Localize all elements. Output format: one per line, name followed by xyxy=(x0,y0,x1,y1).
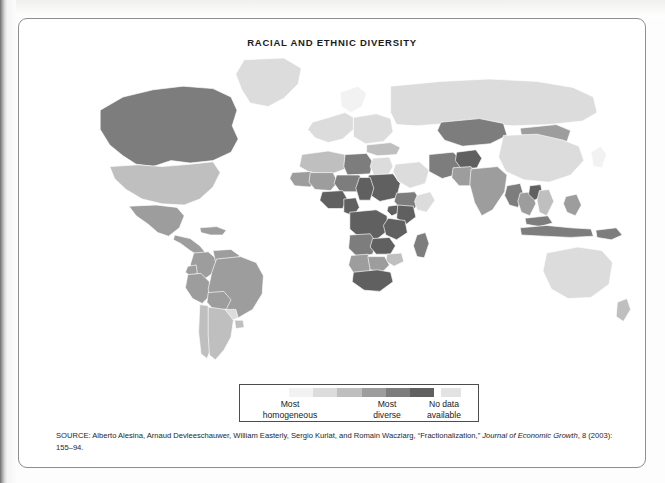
legend-nodata-line2: available xyxy=(411,410,477,421)
map-region-madagascar xyxy=(413,233,429,258)
map-region-western-europe xyxy=(308,113,354,143)
map-region-libya xyxy=(344,153,373,175)
map-region-caribbean xyxy=(200,227,226,235)
legend-ramp-step-6 xyxy=(410,388,434,397)
page-gutter-shadow xyxy=(0,0,7,483)
legend-homogeneous-line1: Most xyxy=(242,399,338,410)
legend-homogeneous-line2: homogeneous xyxy=(242,410,338,421)
world-map-svg xyxy=(33,55,633,385)
map-region-uruguay xyxy=(235,320,245,328)
map-region-canada xyxy=(100,86,238,166)
map-region-eastern-europe xyxy=(353,114,393,144)
legend-label-no-data: No data available xyxy=(411,399,477,420)
map-region-papua-new-guinea xyxy=(596,228,622,240)
page-gutter-inner xyxy=(7,0,16,483)
legend-ramp-step-2 xyxy=(313,388,337,397)
map-legend: Most homogeneous Most diverse No data av… xyxy=(239,384,479,422)
page-title: RACIAL AND ETHNIC DIVERSITY xyxy=(19,37,645,48)
legend-diverse-line1: Most xyxy=(358,399,416,410)
map-region-tanzania xyxy=(383,218,407,240)
map-region-somalia xyxy=(415,192,435,212)
map-region-chad xyxy=(356,177,374,200)
map-region-mali xyxy=(309,173,338,191)
legend-diverse-line2: diverse xyxy=(358,410,416,421)
map-region-kazakhstan xyxy=(437,119,507,147)
map-region-malaysia xyxy=(525,216,553,227)
map-region-indonesia xyxy=(520,225,593,237)
legend-color-ramp xyxy=(289,388,434,397)
map-region-mexico xyxy=(129,205,184,236)
map-region-nigeria xyxy=(320,191,348,209)
legend-ramp-step-3 xyxy=(337,388,361,397)
map-region-north-africa xyxy=(299,151,345,174)
map-region-south-africa xyxy=(352,270,393,292)
map-region-china xyxy=(499,134,584,182)
legend-ramp-step-4 xyxy=(362,388,386,397)
source-journal-name: Journal of Economic Growth xyxy=(482,431,577,440)
map-region-russia xyxy=(391,79,597,126)
map-region-peru xyxy=(185,273,210,303)
legend-label-most-homogeneous: Most homogeneous xyxy=(242,399,338,420)
map-region-argentina xyxy=(208,307,233,360)
map-region-turkey xyxy=(367,143,401,156)
map-region-india xyxy=(470,167,507,216)
map-region-australia xyxy=(543,247,613,299)
legend-nodata-line1: No data xyxy=(411,399,477,410)
legend-ramp-step-1 xyxy=(289,388,313,397)
source-prefix: SOURCE: Alberto Alesina, Arnaud Devleesc… xyxy=(56,431,482,440)
legend-label-most-diverse: Most diverse xyxy=(358,399,416,420)
map-region-vietnam xyxy=(537,189,554,215)
map-region-japan xyxy=(591,146,607,168)
map-region-zambia xyxy=(370,237,395,254)
figure-frame: RACIAL AND ETHNIC DIVERSITY Most homogen… xyxy=(18,18,646,468)
map-region-new-zealand xyxy=(616,299,630,322)
world-choropleth-map xyxy=(33,55,633,385)
map-region-united-states xyxy=(110,162,220,205)
map-region-egypt xyxy=(370,157,393,175)
legend-ramp-step-5 xyxy=(386,388,410,397)
map-region-greenland xyxy=(236,58,301,107)
page-top-edge xyxy=(16,0,665,17)
source-citation: SOURCE: Alberto Alesina, Arnaud Devleesc… xyxy=(56,430,616,453)
map-region-afghanistan xyxy=(455,150,481,169)
legend-no-data-swatch xyxy=(441,388,461,397)
map-region-scandinavia xyxy=(340,86,366,112)
map-region-philippines xyxy=(563,194,581,216)
